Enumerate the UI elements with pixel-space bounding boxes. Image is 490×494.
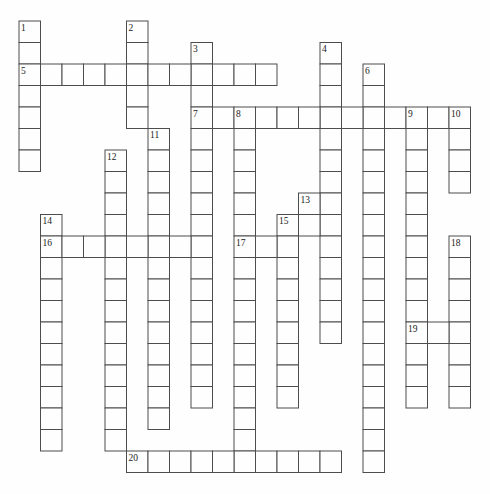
grid-cell[interactable] xyxy=(234,172,256,194)
grid-cell[interactable] xyxy=(363,344,385,366)
grid-cell[interactable] xyxy=(234,387,256,409)
grid-cell[interactable] xyxy=(191,451,213,473)
grid-cell[interactable] xyxy=(127,43,149,65)
grid-cell[interactable] xyxy=(127,64,149,86)
grid-cell[interactable] xyxy=(363,150,385,172)
grid-cell[interactable] xyxy=(148,322,170,344)
grid-cell[interactable] xyxy=(406,365,428,387)
grid-cell[interactable] xyxy=(320,193,342,215)
grid-cell[interactable] xyxy=(234,279,256,301)
grid-cell[interactable] xyxy=(320,107,342,129)
grid-cell[interactable] xyxy=(234,301,256,323)
grid-cell[interactable] xyxy=(449,150,471,172)
grid-cell[interactable] xyxy=(256,451,278,473)
grid-cell[interactable] xyxy=(105,279,127,301)
grid-cell[interactable] xyxy=(41,344,63,366)
grid-cell[interactable] xyxy=(449,344,471,366)
grid-cell[interactable] xyxy=(170,64,192,86)
grid-cell[interactable] xyxy=(406,236,428,258)
grid-cell[interactable] xyxy=(105,387,127,409)
grid-cell[interactable] xyxy=(449,301,471,323)
grid-cell[interactable] xyxy=(406,172,428,194)
grid-cell[interactable] xyxy=(148,258,170,280)
grid-cell[interactable] xyxy=(148,193,170,215)
grid-cell[interactable] xyxy=(148,215,170,237)
grid-cell[interactable] xyxy=(428,107,450,129)
grid-cell[interactable] xyxy=(363,279,385,301)
grid-cell[interactable] xyxy=(105,258,127,280)
grid-cell[interactable] xyxy=(105,365,127,387)
grid-cell[interactable] xyxy=(191,64,213,86)
grid-cell[interactable] xyxy=(277,344,299,366)
grid-cell[interactable] xyxy=(363,129,385,151)
grid-cell[interactable] xyxy=(234,258,256,280)
grid-cell[interactable] xyxy=(320,129,342,151)
grid-cell[interactable] xyxy=(234,365,256,387)
grid-cell[interactable] xyxy=(363,430,385,452)
grid-cell[interactable] xyxy=(191,86,213,108)
grid-cell[interactable] xyxy=(277,258,299,280)
grid-cell[interactable] xyxy=(363,322,385,344)
grid-cell[interactable] xyxy=(363,172,385,194)
grid-cell[interactable] xyxy=(406,301,428,323)
grid-cell[interactable] xyxy=(277,451,299,473)
grid-cell[interactable] xyxy=(191,365,213,387)
grid-cell[interactable] xyxy=(148,64,170,86)
grid-cell[interactable] xyxy=(191,193,213,215)
grid-cell[interactable] xyxy=(148,236,170,258)
grid-cell[interactable] xyxy=(320,64,342,86)
grid-cell[interactable] xyxy=(256,107,278,129)
grid-cell[interactable] xyxy=(105,344,127,366)
grid-cell[interactable] xyxy=(19,150,41,172)
grid-cell[interactable] xyxy=(406,279,428,301)
grid-cell[interactable] xyxy=(105,215,127,237)
grid-cell[interactable] xyxy=(320,150,342,172)
grid-cell[interactable] xyxy=(105,430,127,452)
grid-cell[interactable] xyxy=(363,408,385,430)
grid-cell[interactable] xyxy=(363,193,385,215)
grid-cell[interactable] xyxy=(105,64,127,86)
grid-cell[interactable] xyxy=(105,172,127,194)
grid-cell[interactable] xyxy=(320,301,342,323)
grid-cell[interactable] xyxy=(170,451,192,473)
grid-cell[interactable] xyxy=(62,64,84,86)
grid-cell[interactable] xyxy=(41,408,63,430)
grid-cell[interactable] xyxy=(406,387,428,409)
grid-cell[interactable] xyxy=(84,64,106,86)
grid-cell[interactable] xyxy=(84,236,106,258)
grid-cell[interactable] xyxy=(148,301,170,323)
grid-cell[interactable] xyxy=(256,64,278,86)
grid-cell[interactable] xyxy=(127,236,149,258)
grid-cell[interactable] xyxy=(41,322,63,344)
grid-cell[interactable] xyxy=(449,129,471,151)
grid-cell[interactable] xyxy=(363,365,385,387)
grid-cell[interactable] xyxy=(191,344,213,366)
grid-cell[interactable] xyxy=(62,236,84,258)
grid-cell[interactable] xyxy=(406,193,428,215)
grid-cell[interactable] xyxy=(363,236,385,258)
grid-cell[interactable] xyxy=(19,86,41,108)
grid-cell[interactable] xyxy=(277,107,299,129)
grid-cell[interactable] xyxy=(299,215,321,237)
grid-cell[interactable] xyxy=(385,107,407,129)
grid-cell[interactable] xyxy=(41,387,63,409)
grid-cell[interactable] xyxy=(148,150,170,172)
grid-cell[interactable] xyxy=(428,322,450,344)
grid-cell[interactable] xyxy=(320,172,342,194)
grid-cell[interactable] xyxy=(105,408,127,430)
grid-cell[interactable] xyxy=(191,236,213,258)
grid-cell[interactable] xyxy=(363,301,385,323)
grid-cell[interactable] xyxy=(277,365,299,387)
grid-cell[interactable] xyxy=(406,150,428,172)
grid-cell[interactable] xyxy=(148,408,170,430)
grid-cell[interactable] xyxy=(449,279,471,301)
grid-cell[interactable] xyxy=(234,408,256,430)
grid-cell[interactable] xyxy=(406,129,428,151)
grid-cell[interactable] xyxy=(213,64,235,86)
grid-cell[interactable] xyxy=(213,451,235,473)
grid-cell[interactable] xyxy=(127,86,149,108)
grid-cell[interactable] xyxy=(256,236,278,258)
grid-cell[interactable] xyxy=(234,193,256,215)
grid-cell[interactable] xyxy=(19,129,41,151)
grid-cell[interactable] xyxy=(320,215,342,237)
